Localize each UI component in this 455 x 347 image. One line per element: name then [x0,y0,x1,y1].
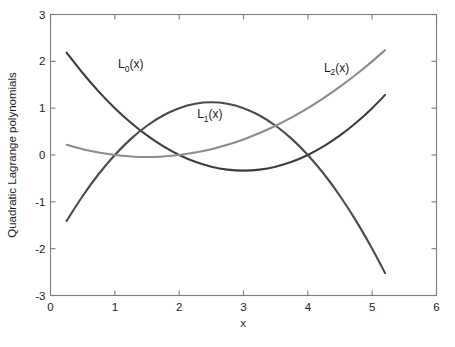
y-axis-title: Quadratic Lagrange polynomials [6,72,18,238]
x-tick-label: 6 [433,301,439,313]
y-tick-label: 2 [39,55,45,67]
x-axis-tick-labels: 0123456 [47,301,439,313]
curve-label-0: L0(x) [118,57,143,74]
y-tick-label: 1 [39,102,45,114]
y-tick-label: 0 [39,149,45,161]
y-tick-label: -1 [35,196,45,208]
x-axis-title: x [240,317,246,329]
curve-group [67,50,385,273]
curve-label-tail: (x) [129,57,143,71]
figure-container: 0123456 -3-2-10123 x Quadratic Lagrange … [0,0,455,347]
quadratic-lagrange-polynomials-chart: 0123456 -3-2-10123 x Quadratic Lagrange … [0,0,455,347]
y-axis-tick-labels: -3-2-10123 [35,9,45,302]
y-tick-label: 3 [39,9,45,21]
x-tick-label: 1 [112,301,118,313]
curve-l1x [67,102,385,273]
y-tick-label: -2 [35,243,45,255]
curve-label-1: L1(x) [197,107,222,124]
y-tick-label: -3 [35,290,45,302]
x-tick-label: 3 [240,301,246,313]
x-tick-label: 5 [369,301,375,313]
curve-label-tail: (x) [209,107,223,121]
curve-annotations: L0(x)L1(x)L2(x) [118,57,349,124]
x-tick-label: 4 [305,301,312,313]
x-tick-label: 2 [176,301,182,313]
curve-label-2: L2(x) [324,61,349,78]
curve-label-tail: (x) [335,61,349,75]
x-tick-label: 0 [47,301,53,313]
